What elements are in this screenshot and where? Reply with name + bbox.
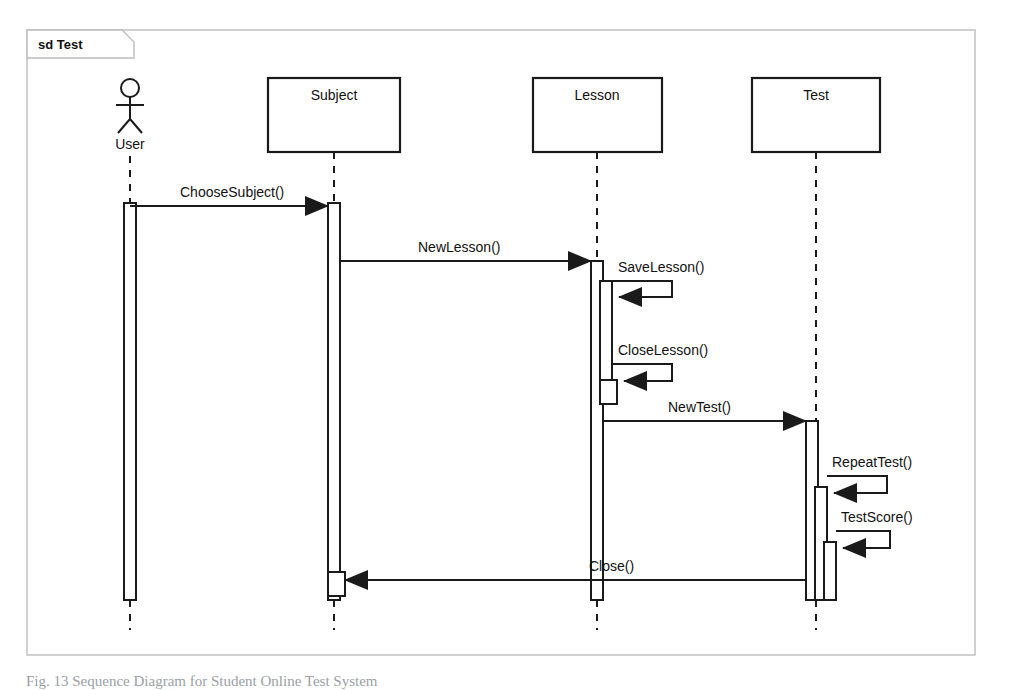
message-label-savelesson: SaveLesson(): [618, 259, 704, 275]
figure-caption-text: Fig. 13 Sequence Diagram for Student Onl…: [26, 673, 378, 689]
lifeline-label-subject: Subject: [311, 87, 358, 103]
activation-bar-subject[interactable]: [328, 203, 340, 600]
activation-bar-lesson-closelesson[interactable]: [600, 380, 617, 404]
activation-bar-user[interactable]: [124, 203, 136, 600]
message-label-newlesson: NewLesson(): [418, 239, 500, 255]
lifeline-label-lesson: Lesson: [574, 87, 619, 103]
message-label-closelesson: CloseLesson(): [618, 342, 708, 358]
message-label-close: Close(): [589, 558, 634, 574]
message-label-testscore: TestScore(): [841, 509, 913, 525]
message-label-choosesubject: ChooseSubject(): [180, 184, 284, 200]
activation-bar-subject-close[interactable]: [328, 572, 345, 596]
frame-label: sd Test: [38, 37, 83, 52]
message-label-repeattest: RepeatTest(): [832, 454, 912, 470]
lifeline-label-test: Test: [803, 87, 829, 103]
lifeline-label-user: User: [115, 136, 145, 152]
diagram-canvas: sd Test User Subject: [0, 0, 1015, 690]
uml-sequence-diagram: sd Test User Subject: [0, 0, 1015, 690]
activation-bar-test-testscore[interactable]: [824, 542, 836, 600]
figure-caption: Fig. 13 Sequence Diagram for Student Onl…: [26, 672, 986, 690]
message-label-newtest: NewTest(): [668, 399, 731, 415]
